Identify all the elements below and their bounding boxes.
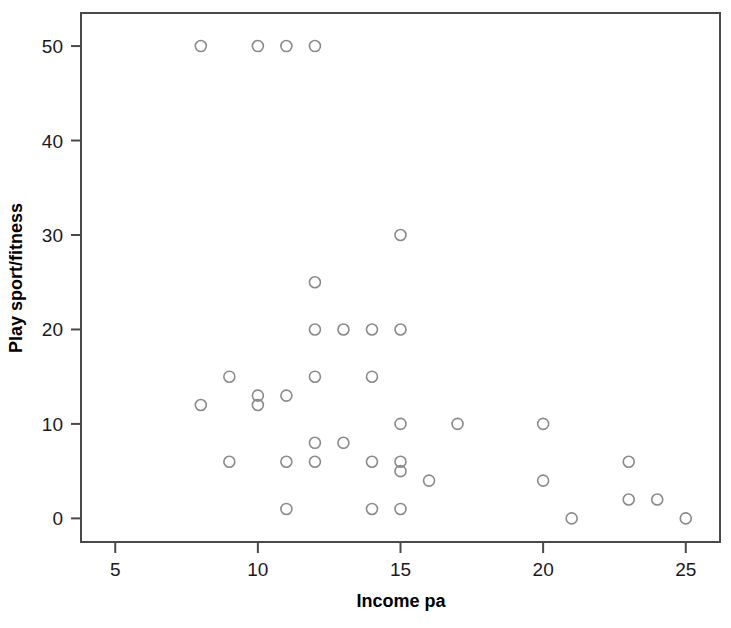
data-point-marker bbox=[623, 494, 634, 505]
x-axis-title: Income pa bbox=[356, 591, 446, 611]
x-tick-label: 25 bbox=[675, 559, 696, 580]
data-point-marker bbox=[338, 324, 349, 335]
x-tick-label: 20 bbox=[533, 559, 554, 580]
data-point-marker bbox=[395, 324, 406, 335]
data-point-marker bbox=[338, 437, 349, 448]
data-point-marker bbox=[309, 277, 320, 288]
data-point-marker bbox=[424, 475, 435, 486]
data-point-marker bbox=[281, 390, 292, 401]
plot-frame bbox=[81, 13, 720, 542]
x-axis-ticks: 510152025 bbox=[110, 542, 696, 580]
data-point-marker bbox=[623, 456, 634, 467]
y-tick-label: 10 bbox=[42, 414, 63, 435]
y-axis-title: Play sport/fitness bbox=[6, 203, 26, 353]
data-point-marker bbox=[366, 371, 377, 382]
data-point-marker bbox=[252, 41, 263, 52]
plot-border bbox=[81, 13, 720, 542]
data-point-marker bbox=[309, 41, 320, 52]
data-point-marker bbox=[224, 456, 235, 467]
data-point-marker bbox=[452, 418, 463, 429]
data-point-marker bbox=[309, 437, 320, 448]
data-point-marker bbox=[366, 503, 377, 514]
scatter-plot-canvas: 01020304050 510152025 Income pa Play spo… bbox=[0, 0, 731, 628]
scatter-plot-figure: 01020304050 510152025 Income pa Play spo… bbox=[0, 0, 731, 628]
data-point-marker bbox=[366, 456, 377, 467]
data-point-marker bbox=[309, 324, 320, 335]
data-point-marker bbox=[538, 475, 549, 486]
x-tick-label: 10 bbox=[247, 559, 268, 580]
data-point-marker bbox=[395, 503, 406, 514]
data-point-marker bbox=[309, 456, 320, 467]
data-point-marker bbox=[309, 371, 320, 382]
y-tick-label: 40 bbox=[42, 131, 63, 152]
data-point-marker bbox=[195, 400, 206, 411]
y-tick-label: 30 bbox=[42, 225, 63, 246]
y-axis-ticks: 01020304050 bbox=[42, 36, 81, 529]
data-point-marker bbox=[281, 41, 292, 52]
data-point-marker bbox=[538, 418, 549, 429]
y-tick-label: 0 bbox=[52, 508, 63, 529]
data-point-marker bbox=[680, 513, 691, 524]
data-point-marker bbox=[366, 324, 377, 335]
data-point-marker bbox=[566, 513, 577, 524]
data-point-marker bbox=[395, 418, 406, 429]
y-tick-label: 20 bbox=[42, 319, 63, 340]
x-tick-label: 15 bbox=[390, 559, 411, 580]
x-tick-label: 5 bbox=[110, 559, 121, 580]
data-point-marker bbox=[281, 456, 292, 467]
data-point-marker bbox=[281, 503, 292, 514]
data-point-marker bbox=[652, 494, 663, 505]
data-points-layer bbox=[195, 41, 691, 524]
data-point-marker bbox=[224, 371, 235, 382]
data-point-marker bbox=[395, 229, 406, 240]
y-tick-label: 50 bbox=[42, 36, 63, 57]
data-point-marker bbox=[195, 41, 206, 52]
